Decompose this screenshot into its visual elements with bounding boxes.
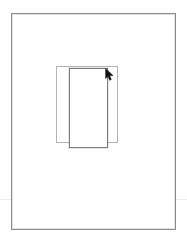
shape-rectangle-front[interactable] [69, 68, 108, 148]
screen-root: Canvas Rectangle 1 unselected Rectangle … [0, 0, 187, 242]
